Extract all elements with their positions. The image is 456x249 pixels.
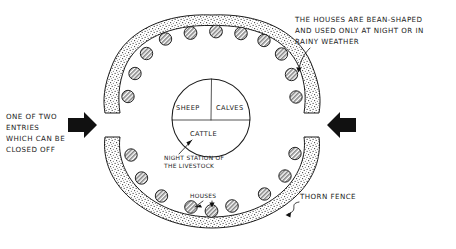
hut-dot[interactable]: [289, 147, 301, 159]
diagram-canvas: SHEEP CALVES CATTLE NIGHT STATION OF THE…: [0, 0, 456, 249]
hut-dot[interactable]: [140, 47, 152, 59]
hut-dot[interactable]: [184, 27, 197, 40]
houses-note-line2: AND USED ONLY AT NIGHT OR IN: [295, 26, 424, 35]
kraal-diagram: SHEEP CALVES CATTLE NIGHT STATION OF THE…: [0, 0, 456, 249]
night-station-line1: NIGHT STATION OF: [164, 155, 224, 161]
entry-note-line3: WHICH CAN BE: [6, 134, 65, 143]
hut-dot[interactable]: [258, 34, 270, 46]
hut-dot[interactable]: [290, 91, 302, 103]
livestock-divider-vertical: [211, 79, 212, 120]
hut-dot[interactable]: [159, 33, 171, 45]
hut-dot[interactable]: [275, 48, 287, 60]
houses-note-annotation: THE HOUSES ARE BEAN-SHAPED AND USED ONLY…: [294, 15, 424, 73]
hut-dot[interactable]: [122, 90, 134, 102]
calves-label: CALVES: [216, 104, 244, 112]
hut-dot[interactable]: [125, 149, 137, 161]
entry-note-line1: ONE OF TWO: [6, 112, 57, 121]
entry-left[interactable]: [68, 112, 97, 138]
night-station-annotation: NIGHT STATION OF THE LIVESTOCK: [163, 140, 224, 169]
livestock-circle: SHEEP CALVES CATTLE: [172, 79, 250, 157]
hut-ring: [122, 25, 302, 217]
cattle-label: CATTLE: [190, 130, 217, 138]
sheep-label: SHEEP: [176, 104, 200, 112]
entry-note-line2: ENTRIES: [6, 123, 39, 132]
hut-dot[interactable]: [129, 67, 141, 79]
entry-right[interactable]: [327, 112, 356, 138]
hut-dot[interactable]: [155, 190, 167, 202]
houses-label: HOUSES: [190, 193, 216, 199]
hut-dot[interactable]: [226, 200, 239, 213]
houses-note-line3: RAINY WEATHER: [295, 37, 359, 46]
houses-note-line1: THE HOUSES ARE BEAN-SHAPED: [294, 15, 423, 24]
night-station-line2: THE LIVESTOCK: [163, 163, 214, 169]
thorn-fence-arrowhead-icon: [286, 212, 292, 217]
entry-arrow-left-icon: [68, 112, 97, 138]
hut-dot[interactable]: [235, 27, 248, 40]
hut-dot[interactable]: [135, 172, 147, 184]
thorn-fence-leader: [288, 202, 299, 214]
hut-dot[interactable]: [210, 25, 223, 38]
hut-dot[interactable]: [285, 68, 297, 80]
entry-note-annotation: ONE OF TWO ENTRIES WHICH CAN BE CLOSED O…: [6, 112, 65, 154]
thorn-fence-label: THORN FENCE: [299, 192, 356, 201]
entry-arrow-right-icon: [327, 112, 356, 138]
hut-dot[interactable]: [279, 170, 291, 182]
hut-dot[interactable]: [258, 188, 270, 200]
entry-note-line4: CLOSED OFF: [6, 145, 55, 154]
